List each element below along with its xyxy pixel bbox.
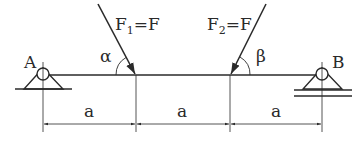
angle-alpha-arc [116,58,126,76]
force-f2-label-main: F [207,14,219,34]
force-f1-label: F1=F [115,14,160,37]
beam-diagram-svg: A B F1=F F2=F α β a a a [0,0,355,143]
angle-beta-arc [240,57,250,75]
force-f2-label: F2=F [207,14,252,37]
force-f1-label-sub: 1 [127,24,134,37]
support-b [294,68,352,96]
force-f1-label-main: F [115,14,127,34]
angle-alpha-label: α [100,46,112,66]
force-f2-label-sub: 2 [219,24,226,37]
force-f1-label-rest: =F [134,14,160,34]
angle-beta-label: β [256,46,266,66]
dimension-label-1: a [84,101,94,121]
support-a-label: A [23,52,37,72]
dimension-label-3: a [271,101,281,121]
beam-diagram: A B F1=F F2=F α β a a a [0,0,355,143]
support-b-label: B [332,52,345,72]
dimension-label-2: a [177,101,187,121]
force-f2-label-rest: =F [226,14,252,34]
